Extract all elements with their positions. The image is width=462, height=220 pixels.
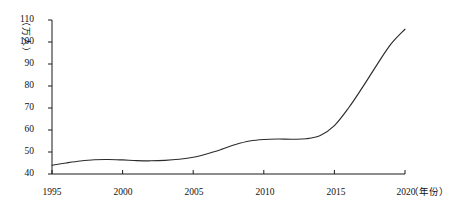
y-axis-ticks xyxy=(48,20,52,174)
plot-area xyxy=(0,0,462,220)
data-series-line xyxy=(52,29,405,165)
chart-container: （ 万 人 ） 110 100 90 80 70 60 50 40 1995 2… xyxy=(0,0,462,220)
axis-lines xyxy=(52,20,405,174)
x-axis-ticks xyxy=(52,170,405,174)
